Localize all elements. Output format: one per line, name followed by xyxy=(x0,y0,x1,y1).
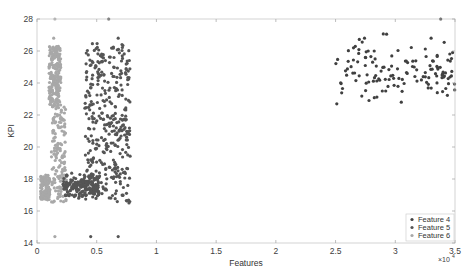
data-point xyxy=(108,166,111,169)
data-point xyxy=(400,101,403,104)
data-point xyxy=(425,55,428,58)
data-point xyxy=(121,94,124,97)
data-point xyxy=(103,104,106,107)
data-point xyxy=(100,71,103,74)
data-point xyxy=(53,153,56,156)
data-point xyxy=(372,80,375,83)
data-point xyxy=(112,124,115,127)
data-point xyxy=(427,86,430,89)
data-point xyxy=(91,139,94,142)
data-point xyxy=(84,102,87,105)
y-tick-label: 24 xyxy=(24,78,34,88)
data-point xyxy=(48,54,51,57)
data-point xyxy=(105,182,108,185)
data-point xyxy=(115,81,118,84)
data-point xyxy=(88,176,91,179)
data-point xyxy=(431,68,434,71)
data-point xyxy=(104,173,107,176)
data-point xyxy=(62,177,65,180)
data-point xyxy=(88,94,91,97)
data-point xyxy=(104,59,107,62)
legend-marker-icon xyxy=(410,226,413,229)
data-point xyxy=(121,114,124,117)
data-point xyxy=(89,235,92,238)
data-point xyxy=(92,127,95,130)
data-point xyxy=(119,180,122,183)
scatter-chart: 00.511.522.533.5 1416182022242628 Featur… xyxy=(0,0,473,277)
data-point xyxy=(425,81,428,84)
data-point xyxy=(102,139,105,142)
data-point xyxy=(124,106,127,109)
data-point xyxy=(54,189,57,192)
data-point xyxy=(397,77,400,80)
data-point xyxy=(380,70,383,73)
data-point xyxy=(364,64,367,67)
data-point xyxy=(59,190,62,193)
data-point xyxy=(108,86,111,89)
data-point xyxy=(127,198,130,201)
data-point xyxy=(100,161,103,164)
data-point xyxy=(89,104,92,107)
data-point xyxy=(374,57,377,60)
data-point xyxy=(110,176,113,179)
data-point xyxy=(54,104,57,107)
y-tick-label: 26 xyxy=(24,46,34,56)
data-point xyxy=(414,59,417,62)
data-point xyxy=(114,197,117,200)
data-point xyxy=(125,143,128,146)
data-point xyxy=(91,77,94,80)
data-point xyxy=(120,49,123,52)
y-tick-label: 16 xyxy=(24,206,34,216)
data-point xyxy=(97,79,100,82)
data-point xyxy=(56,62,59,65)
data-point xyxy=(98,191,101,194)
data-point xyxy=(66,184,69,187)
data-point xyxy=(432,60,435,63)
data-point xyxy=(98,171,101,174)
data-point xyxy=(123,176,126,179)
data-point xyxy=(89,158,92,161)
data-point xyxy=(64,132,67,135)
data-point xyxy=(96,83,99,86)
data-point xyxy=(345,74,348,77)
data-point xyxy=(89,86,92,89)
data-point xyxy=(95,93,98,96)
data-point xyxy=(102,118,105,121)
data-point xyxy=(124,115,127,118)
data-point xyxy=(58,147,61,150)
data-point xyxy=(58,58,61,61)
data-point xyxy=(114,105,117,108)
data-point xyxy=(56,113,59,116)
data-point xyxy=(85,70,88,73)
data-point xyxy=(59,103,62,106)
data-point xyxy=(444,71,447,74)
data-point xyxy=(128,59,131,62)
data-point xyxy=(125,68,128,71)
data-point xyxy=(105,144,108,147)
data-point xyxy=(112,114,115,117)
data-point xyxy=(335,102,338,105)
data-point xyxy=(386,85,389,88)
data-point xyxy=(54,136,57,139)
y-tick-label: 20 xyxy=(24,142,34,152)
data-point xyxy=(119,76,122,79)
data-point xyxy=(54,86,57,89)
data-point xyxy=(93,117,96,120)
data-point xyxy=(65,174,68,177)
data-point xyxy=(65,188,68,191)
data-point xyxy=(396,85,399,88)
data-point xyxy=(58,185,61,188)
y-tick-label: 18 xyxy=(24,174,34,184)
data-point xyxy=(100,53,103,56)
data-point xyxy=(109,117,112,120)
data-point xyxy=(85,181,88,184)
data-point xyxy=(92,186,95,189)
data-point xyxy=(451,51,454,54)
data-point xyxy=(339,81,342,84)
y-axis: 1416182022242628 xyxy=(24,14,455,248)
data-point xyxy=(91,181,94,184)
data-point xyxy=(71,193,74,196)
data-point xyxy=(428,64,431,67)
data-point xyxy=(83,174,86,177)
data-point xyxy=(86,158,89,161)
